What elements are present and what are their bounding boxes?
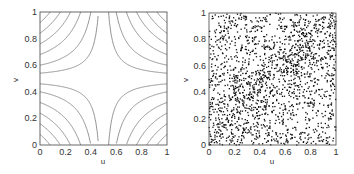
scatter-point — [282, 120, 283, 121]
scatter-point — [308, 105, 309, 106]
scatter-point — [305, 83, 306, 84]
scatter-point — [256, 56, 257, 57]
scatter-point — [239, 101, 240, 102]
scatter-point — [248, 97, 249, 98]
scatter-point — [331, 102, 332, 103]
scatter-point — [316, 112, 317, 113]
scatter-point — [309, 105, 310, 106]
scatter-point — [263, 68, 264, 69]
scatter-point — [251, 21, 252, 22]
scatter-point — [217, 142, 218, 143]
scatter-point — [308, 134, 309, 135]
scatter-point — [222, 35, 223, 36]
scatter-point — [306, 91, 307, 92]
scatter-point — [234, 143, 235, 144]
scatter-point — [216, 29, 217, 30]
scatter-point — [234, 82, 235, 83]
contour-plot: 00.20.40.60.81 00.20.40.60.81 u v — [11, 7, 170, 166]
x-tick-label: 0.6 — [110, 147, 123, 157]
scatter-point — [231, 129, 232, 130]
scatter-point — [278, 103, 279, 104]
scatter-point — [315, 78, 316, 79]
scatter-point — [290, 72, 291, 73]
scatter-point — [319, 55, 320, 56]
scatter-point — [332, 110, 333, 111]
scatter-point — [238, 18, 239, 19]
scatter-point — [247, 108, 248, 109]
scatter-point — [308, 41, 309, 42]
scatter-point — [217, 78, 218, 79]
scatter-point — [301, 67, 302, 68]
scatter-point — [240, 142, 241, 143]
x-tick-labels: 00.20.40.60.81 — [37, 147, 169, 157]
scatter-point — [314, 100, 315, 101]
scatter-point — [288, 43, 289, 44]
scatter-point — [221, 108, 222, 109]
scatter-point — [323, 139, 324, 140]
scatter-point — [238, 37, 239, 38]
scatter-point — [238, 136, 239, 137]
scatter-point — [240, 15, 241, 16]
scatter-point — [305, 47, 306, 48]
scatter-point — [234, 77, 235, 78]
scatter-point — [211, 64, 212, 65]
scatter-point — [232, 134, 233, 135]
scatter-point — [301, 86, 302, 87]
scatter-point — [307, 41, 308, 42]
y-tick-label: 1 — [32, 7, 37, 17]
scatter-point — [248, 81, 249, 82]
scatter-point — [256, 80, 257, 81]
scatter-point — [218, 132, 219, 133]
scatter-point — [225, 22, 226, 23]
scatter-point — [275, 87, 276, 88]
scatter-point — [240, 85, 241, 86]
scatter-point — [275, 123, 276, 124]
scatter-point — [215, 118, 216, 119]
contour-line — [137, 12, 168, 44]
scatter-point — [306, 36, 307, 37]
scatter-point — [283, 78, 284, 79]
scatter-point — [234, 80, 235, 81]
scatter-point — [272, 54, 273, 55]
scatter-point — [227, 70, 228, 71]
scatter-point — [214, 132, 215, 133]
scatter-point — [280, 67, 281, 68]
scatter-point — [266, 95, 267, 96]
scatter-point — [235, 127, 236, 128]
scatter-point — [264, 113, 265, 114]
scatter-point — [235, 94, 236, 95]
scatter-point — [250, 52, 251, 53]
scatter-point — [249, 106, 250, 107]
scatter-point — [324, 96, 325, 97]
scatter-point — [214, 142, 215, 143]
scatter-point — [256, 125, 257, 126]
scatter-point — [232, 97, 233, 98]
scatter-point — [278, 57, 279, 58]
scatter-point — [215, 109, 216, 110]
scatter-point — [284, 75, 285, 76]
scatter-point — [280, 75, 281, 76]
contour-line — [40, 12, 71, 44]
scatter-point — [330, 50, 331, 51]
scatter-point — [258, 72, 259, 73]
scatter-point — [293, 97, 294, 98]
scatter-point — [251, 104, 252, 105]
scatter-point — [315, 31, 316, 32]
scatter-point — [255, 25, 256, 26]
scatter-point — [280, 49, 281, 50]
scatter-point — [333, 64, 334, 65]
scatter-point — [334, 50, 335, 51]
scatter-point — [334, 86, 335, 87]
scatter-point — [321, 18, 322, 19]
scatter-points — [209, 12, 337, 145]
scatter-point — [226, 14, 227, 15]
scatter-point — [294, 137, 295, 138]
scatter-point — [257, 130, 258, 131]
scatter-point — [241, 140, 242, 141]
scatter-point — [331, 89, 332, 90]
scatter-point — [331, 104, 332, 105]
scatter-point — [316, 91, 317, 92]
scatter-point — [255, 17, 256, 18]
scatter-point — [265, 17, 266, 18]
scatter-point — [330, 57, 331, 58]
